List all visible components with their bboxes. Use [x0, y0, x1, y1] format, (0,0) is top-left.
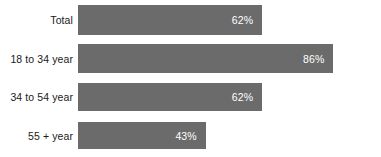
chart-row: 55 + year 43%	[0, 122, 381, 149]
chart-row: 18 to 34 year 86%	[0, 44, 381, 73]
bar[interactable]: 86%	[78, 44, 333, 73]
chart-row: Total 62%	[0, 5, 381, 35]
category-label: 34 to 54 year	[0, 91, 73, 103]
bar-value-label: 62%	[232, 91, 262, 103]
category-label: Total	[0, 14, 73, 26]
category-label: 55 + year	[0, 130, 73, 142]
bar-value-label: 62%	[232, 14, 262, 26]
chart-row: 34 to 54 year 62%	[0, 83, 381, 111]
bar[interactable]: 43%	[78, 122, 206, 149]
bar-chart: Total 62% 18 to 34 year 86% 34 to 54 yea…	[0, 0, 381, 157]
bar[interactable]: 62%	[78, 5, 262, 35]
category-label: 18 to 34 year	[0, 53, 73, 65]
bar-value-label: 43%	[175, 130, 205, 142]
bar-value-label: 86%	[303, 53, 333, 65]
bar[interactable]: 62%	[78, 83, 262, 111]
